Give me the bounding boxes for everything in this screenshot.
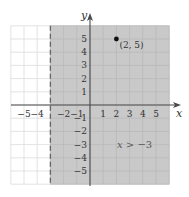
y-tick-label: 4 <box>81 47 87 57</box>
x-tick-label: −2 <box>57 109 70 119</box>
x-tick-label: −4 <box>31 109 45 119</box>
inequality-graph: −5−4−2−112345 54321−1−2−3−4−5 x y (2, 5)… <box>0 0 189 197</box>
point-marker <box>114 37 119 42</box>
x-tick-label: 4 <box>140 109 146 119</box>
x-axis-label: x <box>176 107 183 120</box>
point-label: (2, 5) <box>119 40 143 50</box>
x-tick-label: 1 <box>100 109 106 119</box>
y-tick-label: −2 <box>74 126 87 136</box>
y-tick-label: −1 <box>74 113 87 123</box>
x-tick-label: 5 <box>153 109 159 119</box>
y-tick-label: 1 <box>81 87 87 97</box>
y-tick-label: −4 <box>74 153 88 163</box>
x-tick-label: −5 <box>17 109 31 119</box>
x-tick-label: 3 <box>127 109 133 119</box>
y-tick-label: 5 <box>81 34 87 44</box>
inequality-label: x > −3 <box>117 139 152 150</box>
y-tick-label: 2 <box>81 74 87 84</box>
y-tick-label: −3 <box>74 140 88 150</box>
inequality-rest: > −3 <box>123 139 152 150</box>
y-tick-label: 3 <box>81 60 87 70</box>
y-axis-label: y <box>80 9 88 22</box>
x-tick-label: 2 <box>114 109 120 119</box>
y-tick-label: −5 <box>74 166 88 176</box>
